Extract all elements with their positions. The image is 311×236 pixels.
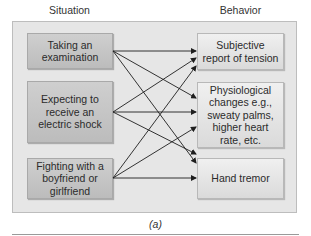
arrow-s1-b2 [113, 51, 196, 98]
arrow-s1-b3 [113, 51, 196, 163]
figure-caption: (a) [0, 218, 311, 230]
bottom-rule [12, 234, 299, 235]
arrow-s3-b2 [113, 127, 196, 178]
arrow-s2-b3 [113, 112, 196, 154]
arrow-s2-b1 [113, 58, 196, 112]
connection-arrows [0, 0, 311, 236]
arrow-s3-b1 [113, 66, 196, 178]
